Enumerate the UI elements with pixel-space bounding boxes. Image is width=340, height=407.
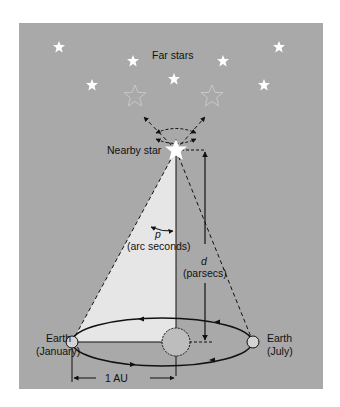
earth-july-label-line2: (July) [267, 345, 293, 357]
parallax-diagram: Far stars [0, 0, 340, 407]
earth-january-label-line2: (January) [36, 345, 80, 357]
parallax-symbol-label: p [154, 228, 161, 240]
earth-january-label-line1: Earth [46, 332, 71, 344]
earth-july-label-line1: Earth [267, 332, 292, 344]
nearby-star-label: Nearby star [107, 144, 162, 156]
au-label: 1 AU [105, 372, 128, 384]
parallax-unit-label: (arc seconds) [127, 240, 191, 252]
earth-july-icon [247, 336, 259, 348]
far-stars-label: Far stars [152, 49, 193, 61]
distance-unit-label: (parsecs) [183, 267, 227, 279]
sun-icon [162, 328, 190, 356]
